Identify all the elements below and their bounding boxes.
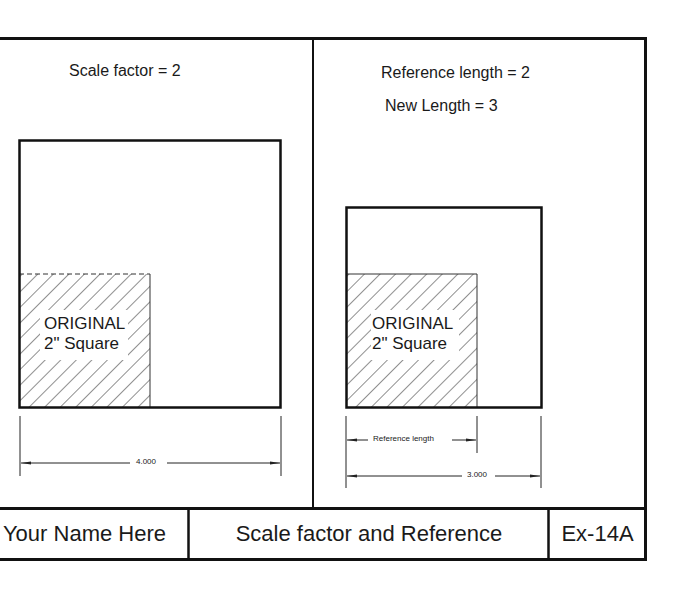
right-dimension-reference: [346, 416, 477, 488]
right-shape-label-line2: 2" Square: [372, 334, 447, 354]
right-dimension-value: 3.000: [467, 470, 487, 479]
reference-length-label: Reference length: [373, 434, 434, 443]
drawing-canvas: [0, 0, 685, 595]
right-heading-reference: Reference length = 2: [381, 64, 530, 82]
title-block-name: Your Name Here: [0, 510, 188, 558]
right-heading-new-length: New Length = 3: [385, 97, 498, 115]
left-shape-label-line2: 2" Square: [44, 334, 119, 354]
left-dimension-4: [20, 416, 281, 476]
left-heading: Scale factor = 2: [69, 62, 181, 80]
author-name: Your Name Here: [3, 521, 188, 547]
title-block-title: Scale factor and Reference: [190, 510, 548, 558]
right-dimension-3: [347, 416, 541, 488]
left-shape-label-line1: ORIGINAL: [44, 314, 125, 334]
left-dimension-value: 4.000: [136, 457, 156, 466]
title-block-exercise: Ex-14A: [550, 510, 645, 558]
right-shape-label-line1: ORIGINAL: [372, 314, 453, 334]
